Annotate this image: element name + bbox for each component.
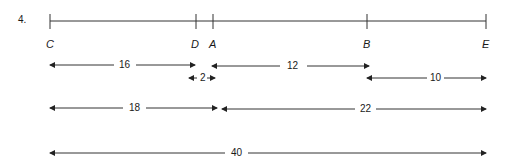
- segment-label-cd: 16: [119, 59, 130, 70]
- segment-label-ae: 22: [360, 103, 371, 114]
- point-label-e: E: [482, 38, 489, 50]
- segment-label-ca: 18: [129, 102, 140, 113]
- segment-label-da: 2: [200, 72, 206, 83]
- point-label-c: C: [46, 38, 54, 50]
- point-label-b: B: [363, 38, 370, 50]
- segment-label-ce: 40: [231, 147, 242, 158]
- point-label-d: D: [191, 38, 199, 50]
- segment-label-be: 10: [430, 72, 441, 83]
- segment-label-ab: 12: [287, 60, 298, 71]
- point-label-a: A: [209, 38, 216, 50]
